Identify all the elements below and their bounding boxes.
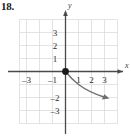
y-axis-label: y [67, 1, 72, 10]
closed-endpoint-dot [62, 68, 69, 75]
x-tick-label-2: 2 [89, 75, 94, 85]
x-tick-label-3: 3 [102, 75, 107, 85]
y-tick-label-neg3: –3 [50, 106, 61, 116]
coordinate-graph: y x 3 2 1 –2 –3 –3 –1 1 2 3 [0, 0, 131, 139]
x-tick-label-neg1: –1 [47, 75, 57, 85]
x-tick-label-neg3: –3 [21, 75, 32, 85]
y-tick-label-2: 2 [53, 41, 58, 51]
x-axis-label: x [124, 61, 129, 70]
y-tick-label-3: 3 [53, 28, 58, 38]
figure-container: 18. [0, 0, 131, 139]
y-tick-label-neg2: –2 [50, 93, 60, 103]
y-tick-label-1: 1 [53, 54, 58, 64]
